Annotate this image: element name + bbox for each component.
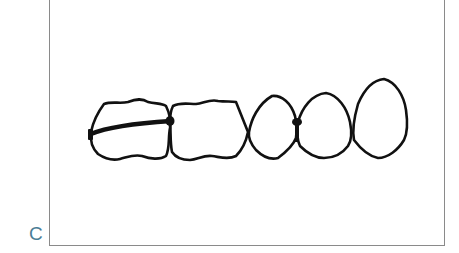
- tooth-3-outline: [249, 96, 297, 159]
- teeth-drawing: [0, 0, 459, 253]
- contact-point-tooth3-4-stem: [295, 122, 299, 142]
- contact-point-tooth1-2: [166, 116, 175, 126]
- tooth-2-outline: [170, 100, 248, 160]
- contact-point-left-end: [88, 129, 93, 140]
- matrix-band-line: [91, 121, 171, 134]
- tooth-5-outline: [353, 79, 407, 158]
- panel-label: C: [29, 224, 43, 243]
- tooth-4-outline: [297, 93, 351, 158]
- contact-points: [88, 116, 302, 142]
